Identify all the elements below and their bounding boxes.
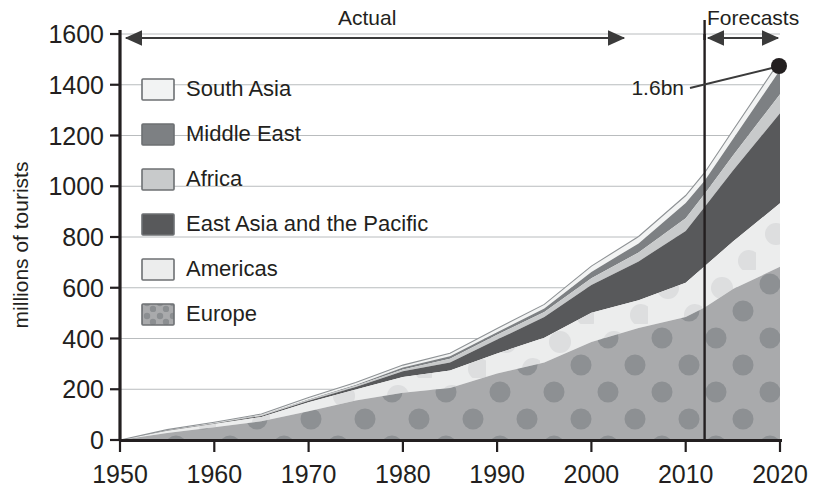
area-bands: [120, 61, 780, 441]
x-tick-label: 1980: [375, 460, 431, 488]
y-tick-label: 1000: [48, 172, 104, 200]
stacked-area-chart: 1600 1400 1200 1000 800 600 400 200 0 19…: [0, 0, 837, 501]
callout-label: 1.6bn: [631, 76, 684, 99]
chart-figure: 1600 1400 1200 1000 800 600 400 200 0 19…: [0, 0, 837, 501]
y-tick-label: 600: [62, 274, 104, 302]
x-tick-label: 1960: [186, 460, 242, 488]
y-tick-label: 0: [90, 426, 104, 454]
y-tick-label: 800: [62, 223, 104, 251]
x-tick-label: 2000: [564, 460, 620, 488]
legend-swatch-middle-east: [142, 124, 174, 145]
actual-label: Actual: [338, 6, 396, 29]
legend-item-africa[interactable]: Africa: [142, 166, 243, 191]
x-tick-label: 1970: [281, 460, 337, 488]
legend-item-south-asia[interactable]: South Asia: [142, 76, 292, 101]
legend-label-americas: Americas: [186, 256, 278, 281]
legend-label-east-asia-pacific: East Asia and the Pacific: [186, 211, 428, 236]
legend-item-europe[interactable]: Europe: [142, 301, 257, 326]
forecasts-label: Forecasts: [707, 6, 799, 29]
legend-label-south-asia: South Asia: [186, 76, 292, 101]
legend-swatch-south-asia: [142, 79, 174, 100]
x-tick-label: 1990: [469, 460, 525, 488]
legend-item-east-asia-pacific[interactable]: East Asia and the Pacific: [142, 211, 428, 236]
y-axis-title: millions of tourists: [9, 162, 32, 329]
y-tick-label: 1600: [48, 20, 104, 48]
endpoint-dot: [771, 58, 787, 74]
legend-swatch-europe: [142, 304, 174, 325]
legend-swatch-americas: [142, 259, 174, 280]
legend: South Asia Middle East Africa East Asia …: [142, 76, 428, 326]
x-tick-label: 1950: [92, 460, 148, 488]
legend-item-americas[interactable]: Americas: [142, 256, 278, 281]
legend-swatch-east-asia-pacific: [142, 214, 174, 235]
y-tick-label: 1400: [48, 71, 104, 99]
y-tick-label: 1200: [48, 122, 104, 150]
y-tick-label: 400: [62, 325, 104, 353]
legend-label-africa: Africa: [186, 166, 243, 191]
x-tick-labels: 1950 1960 1970 1980 1990 2000 2010 2020: [92, 460, 808, 488]
x-tick-label: 2020: [752, 460, 808, 488]
legend-label-europe: Europe: [186, 301, 257, 326]
forecasts-range-annotation: Forecasts: [705, 6, 800, 40]
x-tick-label: 2010: [658, 460, 714, 488]
y-tick-label: 200: [62, 375, 104, 403]
legend-item-middle-east[interactable]: Middle East: [142, 121, 301, 146]
y-tick-labels: 1600 1400 1200 1000 800 600 400 200 0: [48, 20, 104, 454]
legend-label-middle-east: Middle East: [186, 121, 301, 146]
actual-range-annotation: Actual: [126, 6, 624, 38]
legend-swatch-africa: [142, 169, 174, 190]
